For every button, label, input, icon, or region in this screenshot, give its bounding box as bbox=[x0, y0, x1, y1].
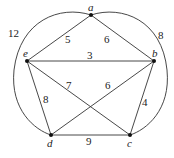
edge-weight-label: 5 bbox=[65, 33, 71, 45]
edge-weight-label: 3 bbox=[87, 49, 93, 61]
edge-a-d-arc bbox=[14, 12, 91, 135]
node-label: d bbox=[47, 137, 53, 149]
node-a bbox=[89, 13, 93, 17]
edge-weight-label: 6 bbox=[105, 79, 111, 91]
edge-weight-label: 8 bbox=[43, 93, 49, 105]
node-label: a bbox=[88, 1, 94, 13]
node-e bbox=[25, 59, 29, 63]
edge-a-b bbox=[91, 15, 154, 61]
edge-weight-label: 7 bbox=[66, 79, 72, 91]
node-b bbox=[152, 59, 156, 63]
edge-a-e bbox=[27, 15, 91, 61]
edge-b-d bbox=[51, 61, 154, 135]
edge-weight-label: 12 bbox=[8, 27, 19, 39]
edge-weight-label: 4 bbox=[142, 96, 148, 108]
edge-weight-label: 8 bbox=[158, 29, 164, 41]
node-label: b bbox=[152, 47, 158, 59]
node-label: c bbox=[127, 137, 132, 149]
weighted-graph-diagram: 56376849128abcde bbox=[0, 0, 174, 158]
node-label: e bbox=[23, 47, 28, 59]
edge-weight-label: 9 bbox=[86, 135, 92, 147]
edge-weight-label: 6 bbox=[104, 33, 110, 45]
edge-a-c-arc bbox=[91, 12, 167, 135]
